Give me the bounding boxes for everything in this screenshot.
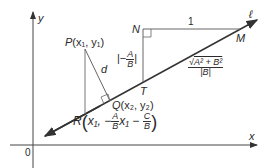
nm-length-label: 1 xyxy=(188,17,194,27)
point-t-label: T xyxy=(140,86,147,97)
point-q-label: Q(x₂, y₂) xyxy=(112,100,154,111)
x-axis-label: x xyxy=(249,131,255,142)
point-p-label: P(x₁, y₁) xyxy=(65,37,104,48)
point-r-label: R(x₁, −ABx₁ − CB) xyxy=(73,112,157,131)
point-m-label: M xyxy=(236,33,245,44)
point-n-label: N xyxy=(132,24,140,35)
right-angle-n xyxy=(143,29,151,37)
tm-length-label: √A² + B²|B| xyxy=(188,58,223,77)
segment-pq xyxy=(85,49,110,101)
line-l-label: ℓ xyxy=(249,9,253,20)
distance-d-label: d xyxy=(101,64,107,75)
y-axis-label: y xyxy=(38,13,44,24)
origin-label: 0 xyxy=(25,148,31,158)
nt-length-label: |−AB| xyxy=(117,50,137,69)
